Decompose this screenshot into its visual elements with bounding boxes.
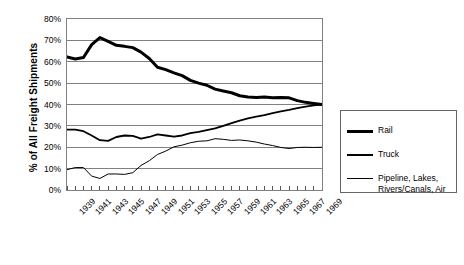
y-axis-tick-label: 30%: [28, 121, 61, 130]
y-axis-tick-label: 60%: [28, 57, 61, 66]
legend-line-swatch: [347, 130, 373, 133]
plot-lines: [67, 19, 322, 190]
y-axis-tick-labels: 80%70%60%50%40%30%20%10%0%: [28, 18, 61, 191]
x-axis-tick-labels: 1939194119431945194719491951195319551957…: [66, 191, 323, 251]
legend-label: Truck: [378, 149, 399, 160]
legend-line-swatch: [347, 154, 373, 156]
freight-shipments-line-chart: % of All Freight Shipments 80%70%60%50%4…: [0, 0, 464, 265]
y-axis-tick-label: 20%: [28, 143, 61, 152]
legend-entry: Pipeline, Lakes, Rivers/Canals, Air: [347, 173, 446, 194]
y-axis-tick-label: 70%: [28, 36, 61, 45]
y-axis-tick-label: 50%: [28, 79, 61, 88]
x-axis-tick-label: 1969: [324, 197, 344, 217]
x-axis-tick-label: 1953: [193, 197, 213, 217]
series-line: [67, 139, 322, 179]
series-line: [67, 38, 322, 105]
legend-label: Rail: [378, 125, 393, 136]
legend-label: Pipeline, Lakes, Rivers/Canals, Air: [378, 173, 446, 194]
x-axis-tick-label: 1949: [160, 197, 180, 217]
x-axis-tick-label: 1957: [226, 197, 246, 217]
series-line: [67, 105, 322, 141]
y-axis-tick-label: 80%: [28, 15, 61, 24]
y-axis-tick-label: 0%: [28, 186, 61, 195]
chart-legend: RailTruckPipeline, Lakes, Rivers/Canals,…: [340, 110, 457, 193]
x-axis-tick-label: 1967: [308, 197, 328, 217]
legend-line-swatch: [347, 178, 373, 179]
legend-entry: Rail: [347, 125, 393, 136]
plot-area: [66, 18, 323, 191]
y-axis-tick-label: 40%: [28, 100, 61, 109]
legend-entry: Truck: [347, 149, 399, 160]
y-axis-tick-label: 10%: [28, 164, 61, 173]
